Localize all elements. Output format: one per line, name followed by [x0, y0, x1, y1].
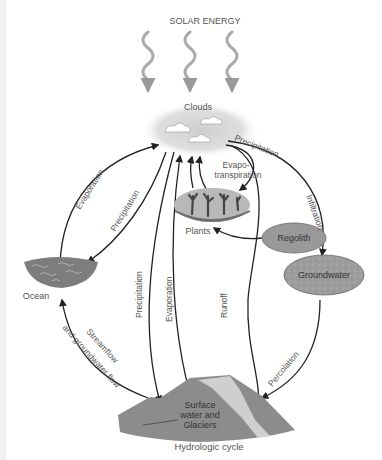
- plants-node: Plants: [174, 188, 250, 236]
- label-evaporation-ocean: Evaporation: [73, 167, 106, 211]
- label-precipitation-surface: Precipitation: [134, 271, 144, 318]
- plants-label: Plants: [185, 226, 211, 236]
- label-evaporation-surface: Evaporation: [164, 276, 174, 322]
- solar-energy-label: SOLAR ENERGY: [169, 16, 240, 26]
- hydrologic-cycle-diagram: SOLAR ENERGY Clouds: [0, 0, 382, 460]
- groundwater-node: Groundwater: [284, 255, 364, 295]
- label-percolation: Percolation: [266, 349, 301, 388]
- regolith-label: Regolith: [277, 233, 310, 243]
- surface-label-2: water and: [179, 410, 220, 420]
- arrow-regolith-plants: [214, 228, 262, 239]
- flow-labels: Evaporation Precipitation Evapo- transpi…: [61, 133, 327, 391]
- label-evapotranspiration-2: transpiration: [215, 170, 262, 180]
- solar-energy: SOLAR ENERGY: [143, 16, 241, 90]
- arrow-evapotranspiration-2: [199, 157, 208, 192]
- arrow-evapotranspiration: [191, 157, 193, 188]
- ocean-label: Ocean: [23, 291, 50, 301]
- groundwater-label: Groundwater: [298, 270, 350, 280]
- label-evapotranspiration-1: Evapo-: [223, 160, 250, 170]
- diagram-title: Hydrologic cycle: [174, 441, 243, 452]
- clouds-label: Clouds: [184, 102, 213, 112]
- ocean-node: Ocean: [23, 257, 98, 301]
- surface-label-3: Glaciers: [183, 420, 217, 430]
- solar-wave-icon: [143, 32, 237, 90]
- surface-label-1: Surface: [184, 400, 215, 410]
- label-runoff: Runoff: [219, 292, 229, 318]
